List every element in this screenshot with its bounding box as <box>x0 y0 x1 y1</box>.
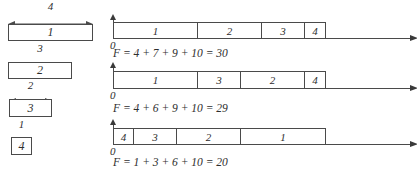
axis-right-arrow-icon <box>410 85 417 91</box>
segment-label: 4 <box>312 74 318 86</box>
program-length-label: 4 <box>8 1 93 12</box>
flow-time-formula: F = 4 + 7 + 9 + 10 = 30 <box>113 47 228 59</box>
schedule-segment: 2 <box>197 22 262 39</box>
program-box: 2 <box>8 62 72 79</box>
schedule-segment: 3 <box>197 71 241 89</box>
schedule-bar: 1324 <box>113 71 326 89</box>
schedule-segment: 2 <box>176 128 241 145</box>
flow-time-formula: F = 4 + 6 + 9 + 10 = 29 <box>113 102 228 114</box>
program-box-label: 3 <box>28 101 34 116</box>
segment-label: 3 <box>152 131 158 143</box>
program-box: 3 <box>9 99 52 117</box>
program-box-label: 1 <box>48 25 54 40</box>
program-box-label: 2 <box>37 63 43 78</box>
program-length-label: 3 <box>8 43 72 54</box>
storage-on-tapes-figure: 4132231412340F = 4 + 7 + 9 + 10 = 301324… <box>0 0 417 176</box>
schedule-segment: 1 <box>113 22 198 39</box>
flow-time-formula: F = 1 + 3 + 6 + 10 = 20 <box>113 156 228 168</box>
schedule-bar: 4321 <box>113 128 326 145</box>
segment-label: 3 <box>280 25 286 37</box>
program-box: 4 <box>11 137 32 155</box>
axis-right-arrow-icon <box>410 35 417 41</box>
schedule-segment: 4 <box>113 128 134 145</box>
schedule-segment: 4 <box>304 22 326 39</box>
origin-up-arrow-icon <box>110 119 116 125</box>
origin-label: 0 <box>110 90 116 101</box>
length-dimension-arrow <box>9 91 52 99</box>
schedule-segment: 3 <box>133 128 177 145</box>
segment-label: 3 <box>216 74 222 86</box>
segment-label: 1 <box>280 131 286 143</box>
segment-label: 1 <box>153 25 159 37</box>
length-dimension-arrow <box>8 14 93 22</box>
program-box-label: 4 <box>19 139 25 154</box>
segment-label: 1 <box>153 74 159 86</box>
segment-label: 4 <box>312 25 318 37</box>
segment-label: 2 <box>227 25 233 37</box>
program-box: 1 <box>8 24 93 41</box>
schedule-segment: 4 <box>304 71 326 89</box>
schedule-segment: 1 <box>240 128 326 145</box>
schedule-bar: 1234 <box>113 22 326 39</box>
program-length-label: 1 <box>11 119 32 130</box>
schedule-segment: 3 <box>261 22 305 39</box>
segment-label: 4 <box>121 131 127 143</box>
schedule-segment: 1 <box>113 71 198 89</box>
origin-up-arrow-icon <box>110 62 116 68</box>
origin-up-arrow-icon <box>110 14 116 20</box>
axis-right-arrow-icon <box>410 141 417 147</box>
schedule-segment: 2 <box>240 71 305 89</box>
segment-label: 2 <box>206 131 212 143</box>
program-length-label: 2 <box>9 80 52 91</box>
segment-label: 2 <box>270 74 276 86</box>
